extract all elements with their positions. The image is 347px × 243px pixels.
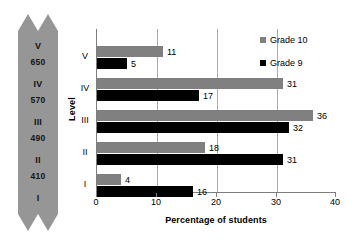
bar-value-grade10-iii: 36: [317, 111, 327, 121]
legend-swatch-icon-grade-9: [260, 60, 266, 66]
ribbon-cutscore-410: 410: [18, 171, 58, 181]
bar-grade10-ii: [97, 142, 205, 153]
bar-value-grade10-iv: 31: [287, 79, 297, 89]
proficiency-scale-ribbon: V 650 IV 570 III 490 II 410 I: [18, 13, 58, 232]
ribbon-level-iv: IV: [18, 79, 58, 89]
bar-grade10-i: [97, 174, 121, 185]
bar-grade10-v: [97, 46, 163, 57]
legend-swatch-icon-grade-10: [260, 37, 266, 43]
legend-label-grade-10: Grade 10: [270, 35, 308, 45]
y-tick-label-v: V: [74, 51, 96, 61]
bar-chart: Level V IV III II I 11 5 31 17 36 32 18 …: [60, 8, 345, 240]
ribbon-level-v: V: [18, 41, 58, 51]
bar-value-grade10-i: 4: [125, 175, 130, 185]
legend-item-grade-10: Grade 10: [260, 34, 347, 45]
bar-value-grade10-ii: 18: [209, 143, 219, 153]
bar-grade9-iv: [97, 90, 199, 101]
ribbon-level-i: I: [18, 193, 58, 203]
legend-label-grade-9: Grade 9: [270, 58, 303, 68]
ribbon-cutscore-650: 650: [18, 57, 58, 67]
y-tick-label-i: I: [74, 179, 96, 189]
x-tick-label-20: 20: [204, 197, 228, 207]
bar-value-grade9-v: 5: [131, 59, 136, 69]
bar-value-grade9-ii: 31: [287, 155, 297, 165]
x-tick-label-10: 10: [144, 197, 168, 207]
ribbon-level-iii: III: [18, 117, 58, 127]
bar-value-grade9-iii: 32: [293, 123, 303, 133]
x-tick-label-0: 0: [84, 197, 108, 207]
bar-grade9-iii: [97, 122, 289, 133]
legend-item-grade-9: Grade 9: [260, 57, 347, 68]
x-axis: 0 10 20 30 40: [96, 193, 336, 199]
bar-grade9-v: [97, 58, 127, 69]
x-axis-title: Percentage of students: [96, 215, 336, 225]
ribbon-cutscore-570: 570: [18, 95, 58, 105]
bar-grade9-ii: [97, 154, 283, 165]
y-tick-label-iii: III: [74, 115, 96, 125]
bar-grade10-iv: [97, 78, 283, 89]
x-tick-label-30: 30: [264, 197, 288, 207]
bar-value-grade9-iv: 17: [203, 91, 213, 101]
bar-grade10-iii: [97, 110, 313, 121]
chart-legend: Grade 10 Grade 9: [260, 34, 347, 80]
x-tick-label-40: 40: [323, 197, 347, 207]
y-tick-label-iv: IV: [74, 83, 96, 93]
ribbon-level-ii: II: [18, 155, 58, 165]
y-tick-label-ii: II: [74, 147, 96, 157]
bar-value-grade10-v: 11: [167, 47, 176, 57]
ribbon-cutscore-490: 490: [18, 133, 58, 143]
